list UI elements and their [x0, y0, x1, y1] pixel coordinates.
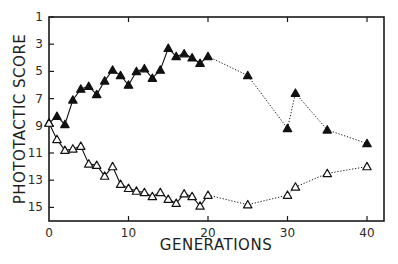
- filled-triangle-marker-icon: [323, 126, 331, 133]
- filled-triangle-marker-icon: [156, 66, 164, 73]
- open-triangle-marker-icon: [85, 160, 93, 167]
- open-triangle-marker-icon: [291, 183, 299, 190]
- x-axis-title: GENERATIONS: [160, 236, 272, 254]
- open-triangle-marker-icon: [77, 142, 85, 149]
- open-triangle-marker-icon: [363, 162, 371, 169]
- y-tick-label: 9: [35, 119, 43, 133]
- y-tick-label: 3: [35, 37, 43, 51]
- open-triangle-marker-icon: [180, 190, 188, 197]
- y-tick-label: 7: [35, 92, 43, 106]
- filled-triangle-marker-icon: [108, 66, 116, 73]
- filled-triangle-marker-icon: [291, 89, 299, 96]
- phototactic-score-chart: 01020304013579111315 GENERATIONS PHOTOTA…: [0, 0, 398, 264]
- filled-triangle-marker-icon: [85, 82, 93, 89]
- open-triangle-marker-icon: [323, 169, 331, 176]
- x-tick-label: 40: [359, 226, 374, 240]
- open-triangle-marker-icon: [108, 162, 116, 169]
- y-tick-label: 11: [28, 146, 43, 160]
- open-triangle-marker-icon: [148, 192, 156, 199]
- x-tick-label: 10: [121, 226, 136, 240]
- open-triangle-marker-icon: [53, 135, 61, 142]
- x-tick-label: 0: [45, 226, 53, 240]
- y-tick-label: 5: [35, 64, 43, 78]
- filled-triangle-marker-icon: [140, 64, 148, 71]
- filled-triangle-marker-icon: [188, 54, 196, 61]
- open-triangle-marker-icon: [283, 191, 291, 198]
- open-triangle-marker-icon: [116, 180, 124, 187]
- y-axis-title: PHOTOTACTIC SCORE: [11, 34, 29, 205]
- y-tick-label: 15: [28, 200, 43, 214]
- filled-triangle-marker-icon: [116, 71, 124, 78]
- open-triangle-marker-icon: [244, 200, 252, 207]
- filled-triangle-marker-icon: [204, 52, 212, 59]
- axes: 01020304013579111315: [28, 10, 384, 240]
- open-triangle-marker-icon: [124, 184, 132, 191]
- filled-triangle-marker-icon: [164, 44, 172, 51]
- series-filled-triangles: [45, 44, 371, 147]
- series-line-dotted: [208, 167, 367, 205]
- filled-triangle-marker-icon: [53, 112, 61, 119]
- open-triangle-marker-icon: [156, 188, 164, 195]
- open-triangle-marker-icon: [204, 191, 212, 198]
- series-open-triangles: [45, 119, 371, 209]
- x-tick-label: 30: [280, 226, 295, 240]
- filled-triangle-marker-icon: [180, 50, 188, 57]
- series-layer: [45, 44, 371, 209]
- filled-triangle-marker-icon: [244, 71, 252, 78]
- plot-frame: [49, 17, 384, 221]
- y-tick-label: 1: [35, 10, 43, 24]
- y-tick-label: 13: [28, 173, 43, 187]
